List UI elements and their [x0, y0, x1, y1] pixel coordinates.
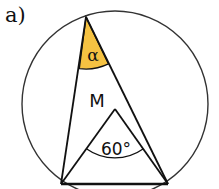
alpha-label: α: [87, 45, 99, 65]
chord-apex-left: [61, 17, 86, 184]
center-label-m: M: [89, 90, 105, 111]
central-angle-label: 60°: [101, 139, 131, 159]
circumcircle: [22, 11, 208, 189]
circle-angle-diagram: α M 60°: [0, 0, 219, 189]
